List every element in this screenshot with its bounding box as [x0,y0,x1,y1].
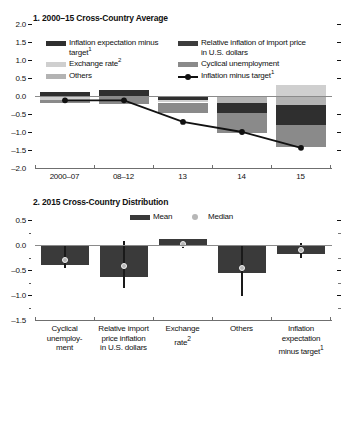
ytick-label-p1-7: –1.5 [0,146,26,155]
legend-label-text: Inflation minus target [201,71,271,80]
right-tick-p2-minor-1 [338,258,341,259]
right-tick-p1-6 [337,132,341,133]
right-tick-p2-minor-0 [338,233,341,234]
xtick-label-p2-0: Cyclical unemploy- ment [35,324,94,353]
ytick-label-p2-1: 0.0 [0,241,26,250]
right-tick-p2-minor-3 [338,308,341,309]
legend-label-line1: Relative inflation of import price [201,38,306,47]
xtick-footnote-2: 2 [187,335,191,342]
ytick-label-p1-6: –1.0 [0,128,26,137]
xtick-label-line1: Inflation [288,324,314,333]
xtick-p2-0 [35,317,36,321]
xtick-label-p2-4: Inflation expectation minus target1 [268,324,334,356]
xtick-label-line1: Cyclical [52,324,78,333]
median-marker-relative-import-price [121,263,127,269]
ytick-mark-p2-3 [28,295,32,296]
legend-label-inflation-minus-target: Inflation minus target1 [201,71,274,81]
xtick-label-line3: minus target [278,347,320,356]
legend-label-exchange-rate: Exchange rate2 [69,59,121,69]
legend-item-exchange-rate[interactable]: Exchange rate2 [46,59,171,69]
legend-swatch-exchange-rate [46,62,66,67]
xtick-p2-2 [153,317,154,321]
xtick-p2-1 [94,317,95,321]
ytick-mark-p2-2 [28,270,32,271]
ytick-label-p2-2: –0.5 [0,266,26,275]
legend-label-median: Median [208,212,233,222]
xtick-footnote-1: 1 [320,344,324,351]
legend-item-cyclical-unemployment[interactable]: Cyclical unemployment [178,59,338,69]
ytick-mark-p1-7 [28,150,32,151]
legend-swatch-inflation-minus-target-line-marker [178,73,198,80]
legend-item-median[interactable]: Median [185,212,233,222]
xtick-label-p1-0: 2000–07 [35,172,94,181]
ytick-mark-p1-6 [28,132,32,133]
legend-label-mean: Mean [153,212,172,222]
xtick-label-line2: price inflation [101,334,145,343]
right-tick-p2-minor-2 [338,283,341,284]
legend-item-mean[interactable]: Mean [130,212,172,222]
legend-label-others: Others [69,71,92,81]
right-tick-p1-5 [337,114,341,115]
xtick-label-line3: ment [56,343,73,352]
legend-item-relative-import-price[interactable]: Relative inflation of import price in U.… [178,38,338,58]
ytick-mark-p2-minor-0 [29,233,31,234]
x-axis-p1 [35,168,332,169]
xtick-label-line1: Relative import [98,324,148,333]
legend-swatch-cyclical-unemployment [178,62,198,67]
xtick-p2-4 [271,317,272,321]
legend-item-others[interactable]: Others [46,71,171,81]
xtick-label-p2-2: Exchange rate2 [153,324,212,347]
median-marker-inflation-expectation [298,247,304,253]
ytick-label-p2-4: –1.5 [0,316,26,325]
xtick-label-p1-3: 14 [212,172,271,181]
legend-label-inflation-expectation: Inflation expectation minus target1 [69,38,158,58]
legend-label-cyclical-unemployment: Cyclical unemployment [201,59,279,69]
legend-footnote-1: 1 [88,46,91,52]
xtick-label-line1: Others [230,324,253,333]
panel-1: 1. 2000–15 Cross-Country Average 2.0 1.5… [0,0,346,190]
median-marker-exchange-rate [180,241,186,247]
ytick-label-p1-5: –0.5 [0,110,26,119]
legend-swatch-others [46,74,66,79]
xtick-label-line2: rate [174,337,187,346]
legend-swatch-inflation-expectation [46,41,66,46]
panel-2-legend: Mean Median [0,190,346,230]
legend-swatch-relative-import-price [178,41,198,46]
xtick-label-line1: Exchange [166,324,200,333]
xtick-p1-5 [330,165,331,169]
xtick-p1-0 [35,165,36,169]
xtick-p1-2 [153,165,154,169]
ytick-mark-p2-minor-1 [29,258,31,259]
median-marker-others [239,265,245,271]
xtick-p2-5 [330,317,331,321]
legend-swatch-mean [130,215,150,220]
legend-item-inflation-expectation[interactable]: Inflation expectation minus target1 [46,38,171,58]
ytick-label-p2-3: –1.0 [0,291,26,300]
ytick-label-p1-8: –2.0 [0,164,26,173]
legend-item-inflation-minus-target[interactable]: Inflation minus target1 [178,71,338,81]
whisker-cyclical-unemployment [64,245,65,268]
xtick-label-line2: unemploy- [47,334,83,343]
ytick-label-p1-4: 0.0 [0,92,26,101]
panel-2: 2. 2015 Cross-Country Distribution 0.5 0… [0,190,346,421]
legend-label-text: Exchange rate [69,59,118,68]
legend-label-line2: in U.S. dollars [201,48,248,57]
xtick-label-line3: in U.S. dollars [100,343,147,352]
figure-root: 1. 2000–15 Cross-Country Average 2.0 1.5… [0,0,346,421]
xtick-p1-4 [271,165,272,169]
right-tick-p2-2 [337,270,341,271]
x-axis-p2 [35,320,332,321]
median-marker-cyclical-unemployment [62,257,68,263]
legend-footnote-2: 2 [118,57,121,63]
xtick-label-p1-4: 15 [271,172,330,181]
xtick-label-p1-2: 13 [153,172,212,181]
zero-line-p2 [35,245,332,246]
xtick-label-p1-1: 08–12 [94,172,153,181]
legend-label-relative-import-price: Relative inflation of import price in U.… [201,38,306,58]
xtick-p1-3 [212,165,213,169]
ytick-mark-p1-5 [28,114,32,115]
xtick-label-p2-3: Others [212,324,271,334]
xtick-p2-3 [212,317,213,321]
panel-1-legend: Inflation expectation minus target1 Rela… [0,0,346,90]
right-tick-p2-3 [337,295,341,296]
